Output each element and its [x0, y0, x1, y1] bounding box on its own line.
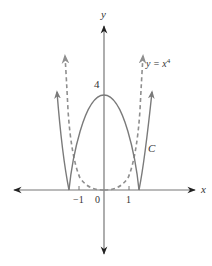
curve-x4-label-exponent: 4: [167, 57, 171, 65]
x-tick-label-0: 0: [95, 194, 100, 205]
y-axis-label: y: [100, 8, 106, 20]
curve-c-label: C: [148, 142, 156, 154]
x-tick-label-neg1: −1: [73, 194, 84, 205]
x-axis-label: x: [200, 183, 206, 195]
curve-x4-left: [65, 56, 104, 190]
x-tick-label-1: 1: [126, 194, 131, 205]
y-tick-label-4: 4: [94, 78, 100, 90]
curve-x4-label: y = x4: [145, 57, 171, 69]
curve-x4-right: [104, 56, 143, 190]
graph-figure: y x −1 0 1 4 C y = x4: [0, 0, 212, 266]
graph-canvas: y x −1 0 1 4 C y = x4: [0, 0, 212, 266]
curve-x4-label-base: y = x: [145, 58, 167, 69]
